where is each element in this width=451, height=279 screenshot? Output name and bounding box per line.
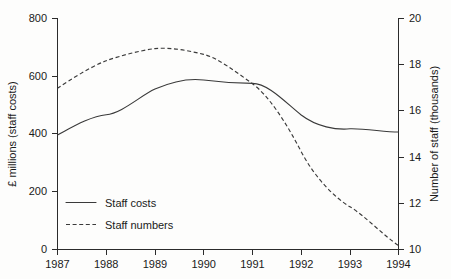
left-tick-label-800: 800 [29, 12, 47, 24]
left-tick-label-400: 400 [29, 127, 47, 139]
legend-label-staff-numbers: Staff numbers [105, 219, 174, 231]
right-axis-title: Number of staff (thousands) [428, 66, 440, 202]
left-tick-label-600: 600 [29, 70, 47, 82]
x-tick-label-1987: 1987 [45, 258, 69, 270]
x-tick-label-1994: 1994 [386, 258, 410, 270]
x-tick-label-1992: 1992 [289, 258, 313, 270]
line-chart-canvas: 800 600 400 200 0 20 18 16 14 12 10 [0, 0, 451, 279]
right-tick-label-10: 10 [409, 243, 421, 255]
left-axis-ticks [52, 19, 58, 250]
x-tick-label-1988: 1988 [94, 258, 118, 270]
x-tick-label-1990: 1990 [191, 258, 215, 270]
series-line-staff-costs [58, 79, 399, 134]
legend-label-staff-costs: Staff costs [105, 197, 157, 209]
chart-figure: 800 600 400 200 0 20 18 16 14 12 10 [0, 0, 451, 279]
right-tick-label-18: 18 [409, 58, 421, 70]
chart-legend: Staff costs Staff numbers [66, 197, 174, 231]
x-axis-ticks [58, 250, 399, 256]
right-tick-label-20: 20 [409, 12, 421, 24]
x-axis-tick-labels: 1987 1988 1989 1990 1991 1992 1993 1994 [45, 258, 410, 270]
x-tick-label-1991: 1991 [240, 258, 264, 270]
right-tick-label-16: 16 [409, 104, 421, 116]
x-tick-label-1989: 1989 [143, 258, 167, 270]
right-tick-label-14: 14 [409, 151, 421, 163]
series-line-staff-numbers [58, 48, 399, 245]
left-tick-label-200: 200 [29, 185, 47, 197]
left-axis-tick-labels: 800 600 400 200 0 [29, 12, 47, 255]
right-axis-tick-labels: 20 18 16 14 12 10 [409, 12, 421, 255]
left-tick-label-0: 0 [41, 243, 47, 255]
left-axis-title: £ millions (staff costs) [6, 81, 18, 187]
x-tick-label-1993: 1993 [338, 258, 362, 270]
right-axis-ticks [399, 19, 405, 250]
right-tick-label-12: 12 [409, 197, 421, 209]
